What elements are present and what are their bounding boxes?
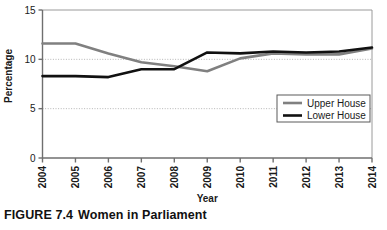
figure-caption-title: Women in Parliament [78,208,207,222]
figure-container: 0510152004200520062007200820092010201120… [0,0,387,230]
series-line-upper-house [43,44,373,72]
x-axis-tick-label: 2014 [367,166,378,189]
series-line-lower-house [43,47,373,77]
x-axis-tick-label: 2011 [268,166,279,188]
y-axis-tick-label: 0 [30,153,36,164]
x-axis-tick-label: 2009 [202,166,213,189]
y-axis-tick-label: 5 [30,103,36,114]
x-axis-tick-label: 2007 [136,166,147,189]
x-axis-tick-label: 2008 [169,166,180,189]
x-axis-tick-label: 2010 [235,166,246,189]
legend-label-upper-house: Upper House [307,98,366,109]
y-axis-tick-label: 15 [24,5,36,16]
y-axis-tick-label: 10 [24,54,36,65]
figure-caption: FIGURE 7.4Women in Parliament [4,208,207,222]
y-axis-title: Percentage [3,49,14,103]
figure-caption-number: FIGURE 7.4 [4,208,73,222]
x-axis-tick-label: 2012 [301,166,312,189]
x-axis-tick-label: 2013 [334,166,345,189]
legend-label-lower-house: Lower House [307,110,366,121]
line-chart: 0510152004200520062007200820092010201120… [0,0,387,230]
chart-legend: Upper HouseLower House [277,95,370,122]
x-axis-tick-label: 2005 [70,166,81,189]
x-axis-title: Year [197,193,218,204]
x-axis-tick-label: 2006 [103,166,114,189]
plot-frame [43,10,373,158]
x-axis-tick-label: 2004 [37,166,48,189]
